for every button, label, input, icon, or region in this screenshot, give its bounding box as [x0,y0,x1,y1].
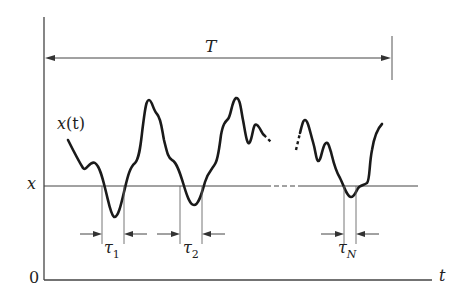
diagram-svg [0,0,466,306]
tau-subscript: 2 [192,248,199,261]
signal-curve-gap-left [264,135,272,143]
tau-n-label: τN [338,240,356,256]
signal-label-var: x [57,114,66,133]
period-span-arrow [45,36,392,80]
tau-symbol: τ [338,238,347,257]
signal-label: x(t) [57,116,85,132]
tau-subscript: N [347,248,357,261]
threshold-label: x [27,176,36,192]
tau-symbol: τ [183,238,192,257]
signal-curve-tail [300,120,382,197]
tau-1-label: τ1 [104,240,120,256]
origin-label: 0 [29,270,39,286]
signal-curve-gap-right [296,133,300,150]
tau-subscript: 1 [113,248,120,261]
signal-curve [68,98,264,217]
signal-label-arg: (t) [66,114,85,133]
tau-symbol: τ [104,238,113,257]
time-axis-label: t [439,268,445,284]
duration-marker-tau-2 [157,186,225,244]
diagram-canvas: T x(t) x 0 t τ1 τ2 τN [0,0,466,306]
tau-2-label: τ2 [183,240,199,256]
period-label: T [205,38,216,55]
duration-marker-tau-n [321,186,379,244]
